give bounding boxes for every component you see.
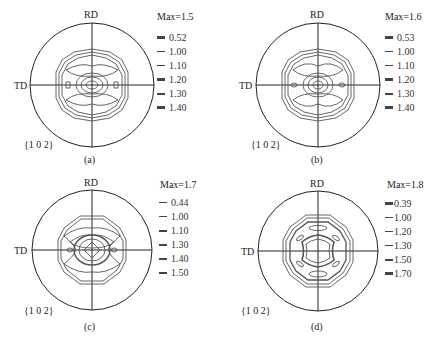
- plane-label: {1 0 2}: [24, 306, 54, 316]
- legend-dash: [157, 65, 165, 67]
- legend-dash: [385, 231, 393, 233]
- pole-figure-d: RD TD {1 0 2} (d) Max=1.8 0.39 1.00 1.20…: [215, 170, 430, 340]
- legend-dash: [385, 106, 393, 109]
- max-label: Max=1.6: [385, 12, 421, 22]
- legend-item: 0.53: [385, 33, 415, 43]
- legend-dash: [385, 272, 393, 275]
- legend-dash: [159, 272, 167, 274]
- axis-label-td: TD: [14, 81, 27, 91]
- legend-item: 1.00: [385, 213, 412, 223]
- legend-dash: [385, 245, 393, 247]
- legend-dash: [159, 244, 167, 246]
- pole-figure-c: RD TD {1 0 2} (c) Max=1.7 0.44 1.00 1.10…: [0, 170, 215, 340]
- max-label: Max=1.8: [387, 180, 423, 190]
- legend-dash: [159, 230, 167, 232]
- legend-item: 1.40: [157, 103, 187, 113]
- legend-item: 1.10: [385, 61, 415, 71]
- axis-label-td: TD: [239, 81, 252, 91]
- axis-label-rd: RD: [84, 10, 98, 20]
- legend-dash: [385, 202, 393, 205]
- legend-dash: [385, 93, 393, 95]
- pole-figure-a: RD TD {1 0 2} (a) Max=1.5 0.52 1.00 1.10…: [0, 0, 215, 170]
- legend-dash: [157, 106, 165, 109]
- legend-dash: [385, 51, 393, 52]
- legend-dash: [159, 202, 167, 204]
- pole-figure-b: RD TD {1 0 2} (b) Max=1.6 0.53 1.00 1.10…: [215, 0, 430, 170]
- legend-item: 0.52: [157, 33, 187, 43]
- legend-item: 1.50: [385, 255, 412, 265]
- legend-item: 1.30: [159, 240, 189, 250]
- panel-caption: (b): [311, 155, 323, 165]
- max-label: Max=1.7: [160, 180, 196, 190]
- axis-label-td: TD: [241, 247, 254, 257]
- legend-item: 1.00: [159, 212, 189, 222]
- plane-label: {1 0 2}: [241, 306, 271, 316]
- legend-item: 1.10: [157, 61, 187, 71]
- panel-caption: (c): [84, 322, 95, 332]
- legend-dash: [159, 216, 167, 217]
- legend-item: 1.00: [385, 47, 415, 57]
- panel-caption: (a): [84, 155, 95, 165]
- legend-item: 1.40: [385, 103, 415, 113]
- legend-dash: [385, 78, 393, 81]
- legend-item: 1.70: [385, 269, 412, 279]
- max-label: Max=1.5: [157, 12, 193, 22]
- axis-label-rd: RD: [310, 179, 324, 189]
- legend-dash: [157, 51, 165, 52]
- legend-dash: [385, 259, 393, 261]
- legend-item: 1.20: [157, 75, 187, 85]
- axis-label-rd: RD: [84, 178, 98, 188]
- legend-item: 1.00: [157, 47, 187, 57]
- legend-item: 0.39: [385, 199, 412, 209]
- legend-dash: [159, 258, 167, 260]
- legend-item: 1.50: [159, 268, 189, 278]
- legend-item: 1.40: [159, 254, 189, 264]
- legend-dash: [385, 65, 393, 67]
- legend-item: 1.10: [159, 226, 189, 236]
- plane-label: {1 0 2}: [251, 140, 281, 150]
- panel-caption: (d): [311, 322, 323, 332]
- legend-item: 0.44: [159, 198, 189, 208]
- legend-dash: [157, 93, 165, 95]
- legend-item: 1.30: [157, 89, 187, 99]
- legend-item: 1.30: [385, 241, 412, 251]
- plane-label: {1 0 2}: [24, 140, 54, 150]
- legend-item: 1.20: [385, 75, 415, 85]
- legend-item: 1.20: [385, 227, 412, 237]
- axis-label-rd: RD: [310, 10, 324, 20]
- axis-label-td: TD: [14, 246, 27, 256]
- legend-dash: [157, 36, 165, 39]
- legend-dash: [157, 78, 165, 81]
- legend-dash: [385, 36, 393, 39]
- legend-item: 1.30: [385, 89, 415, 99]
- legend-dash: [385, 217, 393, 218]
